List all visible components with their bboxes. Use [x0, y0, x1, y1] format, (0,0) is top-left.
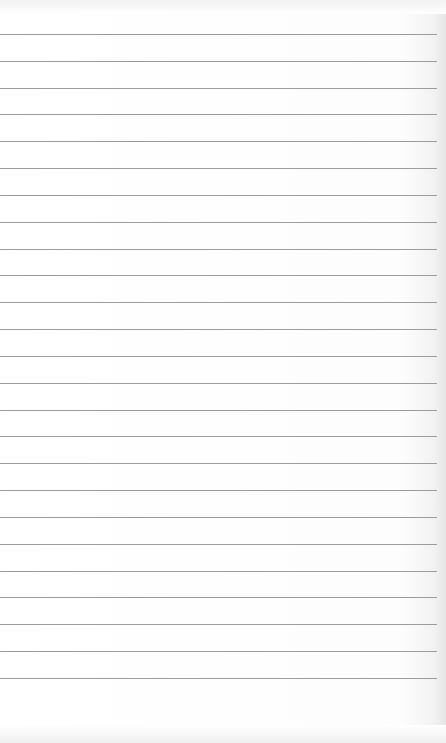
- ruled-line: [0, 114, 437, 115]
- ruled-line: [0, 222, 437, 223]
- ruled-line: [0, 34, 437, 35]
- ruled-line: [0, 410, 437, 411]
- ruled-line: [0, 490, 437, 491]
- ruled-line: [0, 249, 437, 250]
- ruled-line: [0, 651, 437, 652]
- ruled-line: [0, 571, 437, 572]
- ruled-line: [0, 356, 437, 357]
- ruled-line: [0, 624, 437, 625]
- ruled-line: [0, 302, 437, 303]
- ruled-line: [0, 436, 437, 437]
- ruled-line: [0, 517, 437, 518]
- ruled-line: [0, 544, 437, 545]
- ruled-line: [0, 597, 437, 598]
- ruled-line: [0, 88, 437, 89]
- ruled-line: [0, 168, 437, 169]
- lined-paper-sheet: [0, 0, 446, 743]
- paper-top-edge: [0, 0, 446, 14]
- ruled-line: [0, 195, 437, 196]
- ruled-line: [0, 141, 437, 142]
- ruled-line: [0, 463, 437, 464]
- ruled-line: [0, 275, 437, 276]
- ruled-line: [0, 329, 437, 330]
- ruled-line: [0, 678, 437, 679]
- ruled-line: [0, 383, 437, 384]
- paper-bottom-edge: [0, 725, 446, 743]
- ruled-line: [0, 61, 437, 62]
